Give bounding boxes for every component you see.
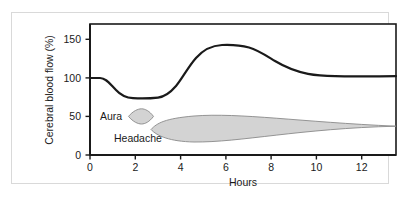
headache-label: Headache xyxy=(114,132,162,144)
x-tick-label-4: 4 xyxy=(178,161,184,173)
chart-canvas: 0 50 100 150 0 2 4 6 8 10 12 Hours Cereb… xyxy=(0,0,413,207)
y-tick-label-100: 100 xyxy=(63,72,81,84)
x-tick-label-8: 8 xyxy=(268,161,274,173)
y-tick-label-50: 50 xyxy=(69,110,81,122)
x-tick-label-10: 10 xyxy=(311,161,323,173)
y-tick-label-0: 0 xyxy=(75,149,81,161)
figure-container: 0 50 100 150 0 2 4 6 8 10 12 Hours Cereb… xyxy=(0,0,413,207)
x-axis-title: Hours xyxy=(229,176,257,188)
y-axis-title: Cerebral blood flow (%) xyxy=(43,35,55,145)
x-tick-label-6: 6 xyxy=(223,161,229,173)
x-tick-label-2: 2 xyxy=(132,161,138,173)
y-tick-label-150: 150 xyxy=(63,33,81,45)
aura-label: Aura xyxy=(100,110,122,122)
x-tick-label-12: 12 xyxy=(356,161,368,173)
x-tick-label-0: 0 xyxy=(87,161,93,173)
